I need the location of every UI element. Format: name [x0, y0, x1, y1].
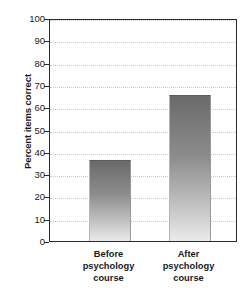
gridline [50, 87, 236, 88]
bar-chart: Percent items correct 100908070605040302… [0, 0, 248, 293]
gridline [50, 65, 236, 66]
category-label-line: After [141, 248, 237, 260]
bar-before [89, 160, 131, 241]
plot-area [49, 19, 237, 242]
gridline [50, 42, 236, 43]
y-tick-label: 100 [5, 14, 45, 24]
y-tick-label: 10 [5, 215, 45, 225]
gridline [50, 20, 236, 21]
y-tick-label: 40 [5, 148, 45, 158]
y-tick-label: 80 [5, 59, 45, 69]
y-tick-label: 0 [5, 237, 45, 247]
x-axis-category-label: Afterpsychologycourse [141, 248, 237, 285]
y-tick-label: 50 [5, 126, 45, 136]
y-tick-label: 20 [5, 192, 45, 202]
y-tick-label: 30 [5, 170, 45, 180]
y-tick-label: 60 [5, 103, 45, 113]
category-label-line: psychology [141, 260, 237, 272]
y-tick-label: 70 [5, 81, 45, 91]
y-tick-label: 90 [5, 36, 45, 46]
bar-after [169, 95, 211, 241]
category-label-line: course [141, 272, 237, 284]
